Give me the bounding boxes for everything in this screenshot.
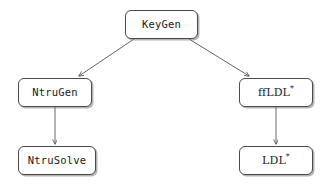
node-ffldl[interactable]: ffLDL* xyxy=(239,78,313,107)
node-ffldl-label-text: ffLDL xyxy=(258,86,290,99)
diagram-canvas: KeyGen NtruGen ffLDL* NtruSolve LDL* xyxy=(0,0,330,188)
node-ldl-label-text: LDL xyxy=(262,154,286,167)
node-keygen-label: KeyGen xyxy=(142,19,181,30)
node-ffldl-label: ffLDL* xyxy=(258,87,294,98)
node-keygen[interactable]: KeyGen xyxy=(125,10,198,39)
node-ntrugen-label: NtruGen xyxy=(32,87,78,98)
node-ffldl-label-star: * xyxy=(290,84,294,93)
node-ntrugen[interactable]: NtruGen xyxy=(18,78,92,107)
edge-keygen-to-ffldl xyxy=(189,39,249,76)
node-ntrusolve[interactable]: NtruSolve xyxy=(18,146,96,175)
node-ntrusolve-label: NtruSolve xyxy=(28,155,87,166)
node-ldl-label: LDL* xyxy=(262,155,290,166)
node-ldl-label-star: * xyxy=(286,152,290,161)
node-ldl[interactable]: LDL* xyxy=(239,146,313,175)
edge-keygen-to-ntrugen xyxy=(79,39,134,76)
